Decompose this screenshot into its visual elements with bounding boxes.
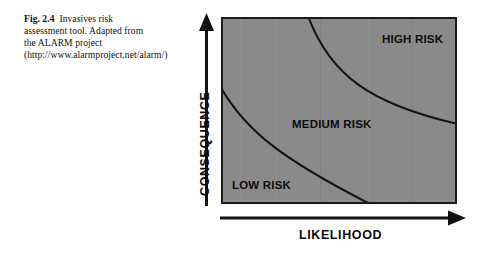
figure-caption-label: Fig. 2.4 [24,13,55,24]
risk-matrix-chart: HIGH RISK MEDIUM RISK LOW RISK LIKELIHOO… [180,0,479,260]
x-axis-title: LIKELIHOOD [299,228,382,242]
figure-caption: Fig. 2.4 Invasives risk assessment tool.… [24,13,156,61]
y-axis-title: CONSEQUENCE [198,91,212,196]
zone-label-medium-risk: MEDIUM RISK [292,118,372,130]
zone-label-low-risk: LOW RISK [232,179,291,191]
zone-label-high-risk: HIGH RISK [382,33,443,45]
plot-area-rect [222,18,456,203]
x-axis-arrow [220,211,466,226]
figure-container: Fig. 2.4 Invasives risk assessment tool.… [0,0,479,260]
